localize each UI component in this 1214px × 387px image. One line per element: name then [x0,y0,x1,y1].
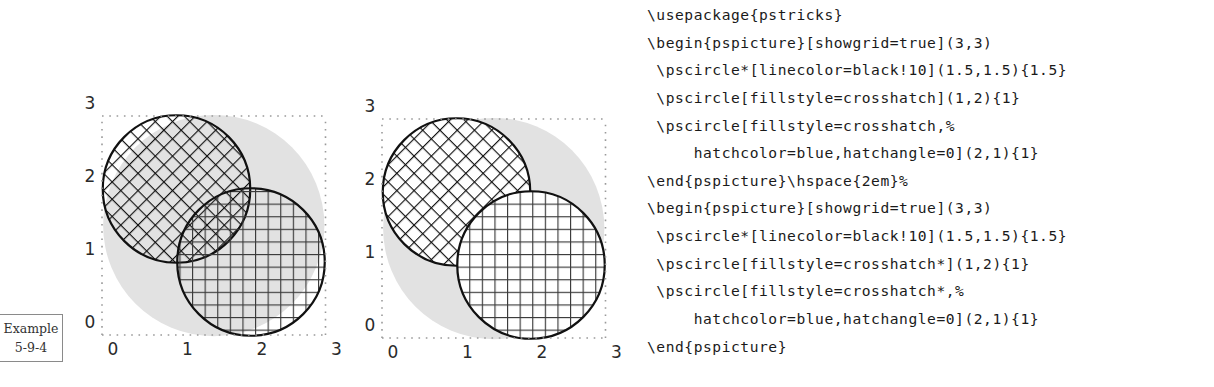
example-label-number: 5-9-4 [0,338,62,357]
y-tick-label: 3 [365,96,376,116]
code-line: \end{pspicture}\hspace{2em}% [647,171,908,191]
x-tick-label: 2 [257,339,268,359]
y-tick-label: 1 [85,239,96,259]
circle-b-circle [177,188,325,336]
code-line: \pscircle[fillstyle=crosshatch](1,2){1} [647,88,1020,108]
x-tick-label: 2 [537,342,548,362]
code-line: \pscircle*[linecolor=black!10](1.5,1.5){… [647,226,1067,246]
pspicture-output: 01230123 01230123 [0,0,640,387]
code-line: hatchcolor=blue,hatchangle=0](2,1){1} [647,143,1039,163]
y-tick-label: 0 [365,315,376,335]
code-line: \pscircle[fillstyle=crosshatch*,% [647,281,964,301]
circle-b-circle [457,191,605,339]
y-tick-label: 3 [85,93,96,113]
example-label: Example 5-9-4 [0,314,63,362]
y-tick-label: 1 [365,242,376,262]
code-line: hatchcolor=blue,hatchangle=0](2,1){1} [647,309,1039,329]
x-tick-label: 1 [462,342,473,362]
code-line: \end{pspicture} [647,337,787,357]
x-tick-label: 3 [611,342,622,362]
y-tick-label: 2 [365,169,376,189]
x-tick-label: 0 [388,342,399,362]
code-line: \begin{pspicture}[showgrid=true](3,3) [647,198,992,218]
x-tick-label: 0 [108,339,119,359]
code-line: \begin{pspicture}[showgrid=true](3,3) [647,33,992,53]
figure-crosshatch-star: 01230123 [365,96,622,362]
code-line: \pscircle*[linecolor=black!10](1.5,1.5){… [647,60,1067,80]
code-line: \pscircle[fillstyle=crosshatch*](1,2){1} [647,254,1030,274]
x-tick-label: 3 [331,339,342,359]
y-tick-label: 2 [85,166,96,186]
code-line: \usepackage{pstricks} [647,5,843,25]
y-tick-label: 0 [85,312,96,332]
figure-crosshatch: 01230123 [85,93,342,359]
code-line: \pscircle[fillstyle=crosshatch,% [647,116,955,136]
x-tick-label: 1 [182,339,193,359]
example-label-title: Example [0,319,62,338]
